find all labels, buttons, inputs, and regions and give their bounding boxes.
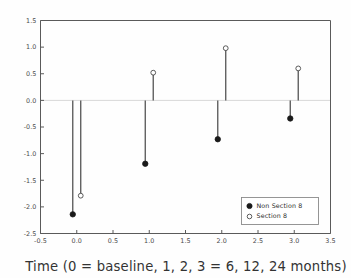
legend-label: Section 8 bbox=[257, 212, 288, 219]
data-point-filled bbox=[215, 137, 220, 142]
data-point-open bbox=[296, 66, 301, 71]
chart-legend: Non Section 8Section 8 bbox=[242, 198, 319, 225]
y-tick-label: -0.5 bbox=[24, 123, 37, 131]
x-tick-label: 0.5 bbox=[108, 237, 118, 245]
x-tick-label: 2.5 bbox=[253, 237, 263, 245]
data-point-open bbox=[151, 70, 156, 75]
data-point-filled bbox=[288, 116, 293, 121]
stem-plot-svg: -2.5-2.0-1.5-1.0-0.50.00.51.01.5 -0.50.0… bbox=[0, 0, 351, 278]
x-tick-label: 3.5 bbox=[325, 237, 335, 245]
legend-marker-filled bbox=[247, 203, 252, 208]
x-axis-title: Time (0 = baseline, 1, 2, 3 = 6, 12, 24 … bbox=[24, 259, 347, 274]
chart-figure: -2.5-2.0-1.5-1.0-0.50.00.51.01.5 -0.50.0… bbox=[0, 0, 351, 278]
x-tick-label: 1.0 bbox=[144, 237, 154, 245]
y-tick-label: 0.5 bbox=[26, 70, 36, 78]
data-point-filled bbox=[70, 212, 75, 217]
legend-marker-open bbox=[247, 214, 252, 219]
y-tick-label: -2.0 bbox=[24, 203, 37, 211]
x-tick-label: 1.5 bbox=[180, 237, 190, 245]
data-point-filled bbox=[143, 161, 148, 166]
y-tick-label: 1.0 bbox=[26, 43, 36, 51]
y-tick-label: -1.5 bbox=[24, 177, 37, 185]
y-tick-label: 1.5 bbox=[26, 17, 36, 25]
x-tick-label: 3.0 bbox=[289, 237, 299, 245]
y-tick-label: -1.0 bbox=[24, 150, 37, 158]
legend-label: Non Section 8 bbox=[257, 202, 303, 209]
y-tick-label: 0.0 bbox=[26, 97, 36, 105]
data-point-open bbox=[223, 46, 228, 51]
x-tick-label: 2.0 bbox=[217, 237, 227, 245]
data-point-open bbox=[78, 193, 83, 198]
x-tick-label: 0.0 bbox=[72, 237, 82, 245]
x-tick-label: -0.5 bbox=[34, 237, 47, 245]
